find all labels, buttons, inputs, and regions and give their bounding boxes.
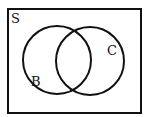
set-c-label: C <box>107 43 117 58</box>
universe-rectangle <box>8 9 141 113</box>
set-b-label: B <box>31 74 41 89</box>
universe-label: S <box>11 11 20 26</box>
venn-diagram: S B C <box>0 0 148 117</box>
